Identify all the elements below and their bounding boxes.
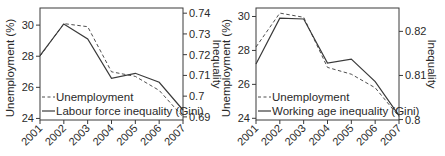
y-right-tick-label: 0.73 (189, 28, 210, 40)
x-tick-label: 2006 (138, 122, 164, 148)
x-tick-label: 2003 (66, 122, 92, 148)
y-tick-label: 30 (22, 19, 34, 31)
x-tick-label: 2007 (162, 122, 188, 148)
x-tick-label: 2002 (258, 122, 284, 148)
x-tick-label: 2001 (235, 122, 261, 148)
x-tick-label: 2003 (282, 122, 308, 148)
legend-label: Working age inequality (Gini) (272, 105, 420, 117)
x-tick-label: 2002 (42, 122, 68, 148)
y-tick-label: 28 (238, 44, 250, 56)
chart-labour-force: 242628300.690.70.710.720.730.74200120022… (4, 7, 223, 148)
dual-axis-line-charts: 242628300.690.70.710.720.730.74200120022… (0, 0, 445, 156)
y-axis-title: Unemployment (%) (220, 19, 232, 118)
x-tick-label: 2007 (378, 122, 404, 148)
y-tick-label: 26 (238, 78, 250, 90)
chart-working-age: 242628300.80.810.82200120022003200420052… (220, 8, 438, 148)
x-tick-label: 2004 (90, 122, 116, 148)
legend-label: Unemployment (272, 91, 350, 103)
figure: 242628300.690.70.710.720.730.74200120022… (0, 0, 445, 156)
plot-frame (40, 8, 183, 120)
y-right-axis-title: Inequality (426, 39, 438, 88)
y-tick-label: 28 (22, 50, 34, 62)
y-tick-label: 24 (22, 112, 34, 124)
y-right-tick-label: 0.72 (189, 49, 210, 61)
x-tick-label: 2006 (354, 122, 380, 148)
legend-label: Labour force inequality (Gini) (56, 105, 204, 117)
y-right-tick-label: 0.71 (189, 69, 210, 81)
x-tick-label: 2004 (306, 122, 332, 148)
legend-label: Unemployment (56, 91, 134, 103)
plot-frame (256, 8, 399, 120)
y-right-tick-label: 0.81 (405, 69, 426, 81)
y-axis-title: Unemployment (%) (4, 19, 16, 118)
y-right-tick-label: 0.82 (405, 25, 426, 37)
x-tick-label: 2005 (114, 122, 140, 148)
y-tick-label: 30 (238, 10, 250, 22)
x-tick-label: 2001 (19, 122, 45, 148)
y-tick-label: 26 (22, 81, 34, 93)
y-right-tick-label: 0.74 (189, 7, 210, 19)
y-right-tick-label: 0.7 (189, 90, 204, 102)
x-tick-label: 2005 (330, 122, 356, 148)
y-tick-label: 24 (238, 112, 250, 124)
